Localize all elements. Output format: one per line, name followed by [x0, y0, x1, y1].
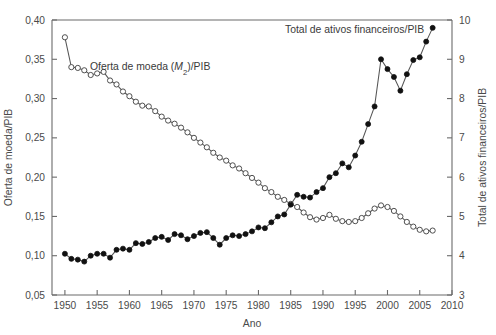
data-point	[346, 165, 351, 170]
data-point	[69, 256, 74, 261]
data-point	[237, 234, 242, 239]
y-tick-label-right: 10	[459, 15, 471, 26]
data-point	[166, 118, 171, 123]
data-point	[191, 135, 196, 140]
data-point	[359, 215, 364, 220]
data-point	[262, 186, 267, 191]
data-point	[379, 57, 384, 62]
data-point	[211, 150, 216, 155]
y-tick-label-left: 0,20	[25, 172, 45, 183]
data-point	[146, 104, 151, 109]
data-point	[269, 220, 274, 225]
data-point	[140, 241, 145, 246]
data-point	[256, 225, 261, 230]
x-tick-label: 2005	[408, 300, 431, 311]
chart-canvas: 0,050,100,150,200,250,300,350,4034567891…	[0, 0, 496, 335]
x-tick-label: 1960	[118, 300, 141, 311]
y-tick-label-right: 3	[459, 290, 465, 301]
data-point	[101, 251, 106, 256]
x-tick-label: 1950	[54, 300, 77, 311]
data-point	[295, 192, 300, 197]
x-tick-label: 1990	[312, 300, 335, 311]
data-point	[114, 82, 119, 87]
data-point	[346, 219, 351, 224]
data-point	[333, 171, 338, 176]
data-point	[411, 224, 416, 229]
data-point	[114, 247, 119, 252]
data-point	[398, 88, 403, 93]
data-point	[385, 67, 390, 72]
data-point	[372, 104, 377, 109]
data-point	[204, 145, 209, 150]
data-point	[159, 114, 164, 119]
data-point	[82, 259, 87, 264]
data-point	[417, 55, 422, 60]
data-point	[320, 186, 325, 191]
data-point	[314, 190, 319, 195]
y-tick-label-left: 0,30	[25, 93, 45, 104]
data-point	[107, 78, 112, 83]
x-tick-label: 1955	[86, 300, 109, 311]
data-point	[217, 242, 222, 247]
data-point	[314, 217, 319, 222]
data-point	[404, 72, 409, 77]
data-point	[146, 239, 151, 244]
data-point	[153, 236, 158, 241]
y-tick-label-left: 0,25	[25, 132, 45, 143]
y-tick-label-left: 0,10	[25, 250, 45, 261]
series-label-financial-assets: Total de ativos financeiros/PIB	[285, 24, 424, 35]
data-point	[153, 109, 158, 114]
data-point	[391, 74, 396, 79]
data-point	[133, 241, 138, 246]
data-point	[62, 251, 67, 256]
data-point	[282, 212, 287, 217]
data-point	[224, 236, 229, 241]
y-tick-label-right: 6	[459, 172, 465, 183]
data-point	[243, 232, 248, 237]
data-point	[424, 229, 429, 234]
data-point	[230, 163, 235, 168]
data-point	[127, 94, 132, 99]
data-point	[295, 204, 300, 209]
data-point	[430, 228, 435, 233]
y-tick-label-right: 4	[459, 250, 465, 261]
y-axis-title-left: Oferta de moeda/PIB	[3, 109, 14, 207]
y-tick-label-right: 9	[459, 54, 465, 65]
data-point	[172, 121, 177, 126]
data-point	[224, 158, 229, 163]
data-point	[88, 253, 93, 258]
y-tick-label-right: 8	[459, 93, 465, 104]
data-point	[417, 227, 422, 232]
data-point	[366, 122, 371, 127]
x-tick-label: 1975	[215, 300, 238, 311]
data-point	[108, 255, 113, 260]
data-point	[340, 219, 345, 224]
x-tick-label: 1980	[247, 300, 270, 311]
data-point	[424, 39, 429, 44]
data-point	[282, 197, 287, 202]
data-point	[307, 215, 312, 220]
data-point	[198, 230, 203, 235]
chart-figure: 0,050,100,150,200,250,300,350,4034567891…	[0, 0, 496, 335]
data-point	[88, 72, 93, 77]
data-point	[333, 216, 338, 221]
data-point	[275, 194, 280, 199]
data-point	[353, 219, 358, 224]
data-point	[327, 175, 332, 180]
data-point	[217, 155, 222, 160]
x-tick-label: 2010	[441, 300, 464, 311]
data-point	[359, 139, 364, 144]
data-point	[404, 219, 409, 224]
y-tick-label-right: 5	[459, 211, 465, 222]
data-point	[378, 203, 383, 208]
data-point	[301, 210, 306, 215]
data-point	[327, 212, 332, 217]
data-point	[262, 226, 267, 231]
data-point	[69, 65, 74, 70]
data-point	[250, 229, 255, 234]
data-point	[430, 25, 435, 30]
data-point	[256, 180, 261, 185]
data-point	[75, 65, 80, 70]
data-point	[62, 35, 67, 40]
data-point	[211, 236, 216, 241]
